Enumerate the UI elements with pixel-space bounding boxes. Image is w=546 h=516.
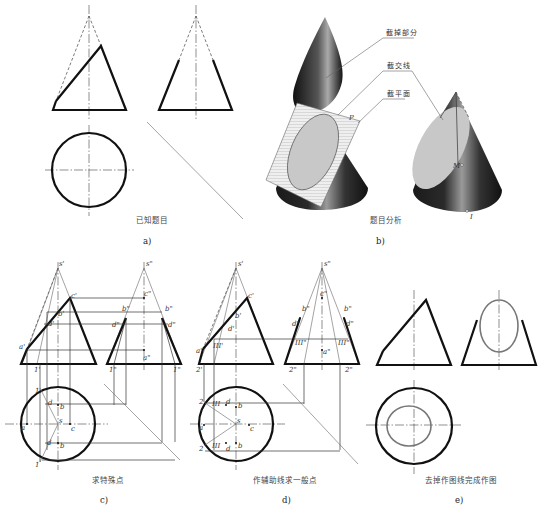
svg-text:s": s" — [146, 260, 153, 268]
svg-text:d": d" — [168, 321, 176, 329]
top-view — [45, 125, 134, 216]
svg-text:d: d — [48, 399, 53, 407]
svg-text:a": a" — [323, 348, 330, 356]
svg-text:a': a' — [19, 343, 25, 351]
svg-text:1': 1' — [34, 366, 40, 374]
callout-cut-off-part: 截掉部分 — [386, 28, 418, 37]
technical-drawing: 已知题目 a) P M I 截掉部分 截交线 截平面 — [0, 0, 546, 516]
svg-text:b': b' — [235, 312, 241, 320]
side-view — [159, 5, 232, 120]
svg-text:a": a" — [143, 354, 150, 362]
svg-text:c": c" — [144, 290, 151, 298]
svg-text:1": 1" — [109, 366, 117, 374]
svg-text:b: b — [238, 402, 243, 410]
front-view — [53, 5, 126, 120]
panel-a-sublabel: a) — [143, 236, 151, 246]
svg-text:III": III" — [294, 339, 307, 347]
svg-text:d": d" — [112, 321, 120, 329]
svg-text:2: 2 — [198, 398, 204, 406]
svg-text:b": b" — [302, 305, 310, 313]
svg-text:1": 1" — [173, 366, 181, 374]
callout-section-line: 截交线 — [387, 61, 411, 70]
svg-text:c": c" — [320, 290, 327, 298]
panel-b: P M I 截掉部分 截交线 截平面 题目分析 b) — [266, 17, 502, 246]
svg-text:d: d — [226, 398, 231, 406]
svg-text:b: b — [60, 442, 65, 450]
svg-text:2": 2" — [288, 366, 297, 374]
svg-text:a': a' — [196, 347, 202, 355]
panel-b-sublabel: b) — [376, 236, 385, 246]
svg-text:1: 1 — [35, 387, 39, 395]
panel-d-caption: 作辅助线求一般点 — [253, 475, 317, 485]
panel-b-caption: 题目分析 — [370, 215, 402, 225]
svg-text:III': III' — [212, 342, 223, 350]
callouts: 截掉部分 截交线 截平面 — [326, 28, 443, 123]
svg-text:1: 1 — [35, 461, 39, 469]
svg-text:d': d' — [228, 325, 234, 333]
panel-e-sublabel: e) — [455, 495, 463, 505]
svg-text:b: b — [60, 403, 65, 411]
svg-text:III: III — [211, 400, 221, 408]
svg-text:c: c — [71, 425, 75, 433]
svg-text:2: 2 — [198, 445, 204, 453]
panel-d-sublabel: d) — [282, 495, 291, 505]
panel-d: s' c' b' d' a' III' 2' s" c" b" b" d" d"… — [190, 260, 359, 505]
panel-e: 去掉作图线完成作图 e) — [366, 290, 536, 505]
cut-off-part — [293, 17, 343, 113]
svg-text:s: s — [237, 417, 241, 425]
svg-text:c': c' — [248, 292, 254, 300]
panel-e-caption: 去掉作图线完成作图 — [425, 475, 497, 485]
svg-text:d": d" — [292, 320, 300, 328]
panel-a: 已知题目 a) — [45, 5, 243, 246]
svg-text:c': c' — [71, 292, 77, 300]
svg-text:d': d' — [48, 320, 54, 328]
miter-line-c — [104, 384, 180, 460]
svg-text:2': 2' — [195, 366, 202, 374]
svg-text:d: d — [47, 439, 52, 447]
plane-label: P — [348, 114, 354, 122]
panel-c: s' c' b' d' a' 1' s" c" b" b" d" d" a" 1… — [5, 260, 181, 505]
svg-text:b': b' — [58, 310, 64, 318]
panel-c-caption: 求特殊点 — [92, 475, 124, 485]
panel-a-caption: 已知题目 — [136, 215, 168, 225]
svg-text:b": b" — [165, 305, 173, 313]
svg-text:s': s' — [238, 260, 244, 268]
svg-text:a: a — [199, 424, 203, 432]
svg-text:d": d" — [346, 320, 354, 328]
point-i-label: I — [469, 213, 473, 221]
svg-text:s': s' — [59, 260, 65, 268]
point-m-label: M — [452, 162, 461, 170]
callout-cutting-plane: 截平面 — [387, 89, 411, 98]
svg-text:b: b — [238, 442, 243, 450]
miter-line-d — [283, 384, 358, 464]
svg-text:s": s" — [324, 260, 331, 268]
miter-line — [147, 122, 243, 219]
svg-text:c: c — [250, 425, 254, 433]
section-curve-top — [387, 406, 431, 446]
svg-text:a: a — [21, 424, 25, 432]
svg-text:b": b" — [344, 305, 352, 313]
svg-text:s: s — [59, 417, 63, 425]
svg-text:III": III" — [337, 339, 350, 347]
svg-text:III: III — [211, 442, 221, 450]
svg-text:b": b" — [122, 305, 130, 313]
svg-text:2": 2" — [344, 366, 353, 374]
svg-text:d: d — [226, 445, 231, 453]
panel-c-sublabel: c) — [100, 495, 108, 505]
